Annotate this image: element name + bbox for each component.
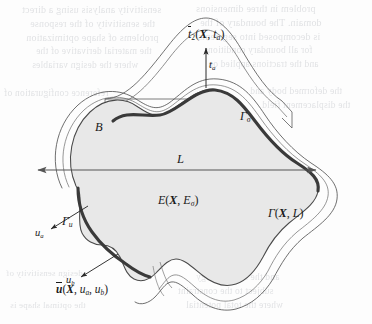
label-displacement-boundary: Γu xyxy=(62,215,73,229)
label-traction-distance: ta xyxy=(209,59,216,72)
label-energy-field: E(X, Eσ) xyxy=(158,194,199,208)
label-disp-a: ua xyxy=(35,228,44,240)
reference-body-B xyxy=(71,90,319,286)
label-traction-field: t2(X, ta) xyxy=(188,28,224,42)
label-traction-boundary: Γσ xyxy=(240,110,251,124)
label-body-B: B xyxy=(95,121,103,134)
continuum-body-diagram xyxy=(0,0,372,324)
label-displacement-field: u(X, ua, ub) xyxy=(56,284,108,296)
label-contour-field: Γ(X, L) xyxy=(268,207,304,219)
figure-root: sensitivity analysis using a directprobl… xyxy=(0,0,372,324)
label-length-L: L xyxy=(177,153,184,166)
